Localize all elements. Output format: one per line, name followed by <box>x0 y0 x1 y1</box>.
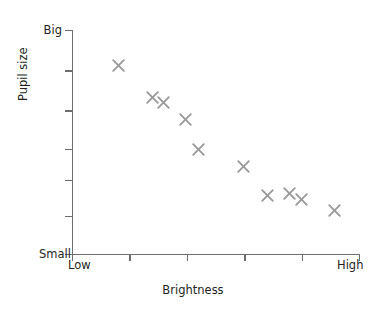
y-axis-tick-2 <box>65 180 72 181</box>
x-axis-tick-3 <box>244 254 245 261</box>
y-axis-min-label: Small <box>39 247 71 261</box>
data-point-marker <box>156 95 171 110</box>
x-axis-tick-4 <box>302 254 303 261</box>
data-point-marker <box>178 112 193 127</box>
x-axis-tick-2 <box>187 254 188 261</box>
y-axis-tick-3 <box>65 149 72 150</box>
data-point-marker <box>236 159 251 174</box>
x-axis-line <box>72 254 359 255</box>
x-axis-max-label: High <box>337 258 363 272</box>
y-axis-max-label: Big <box>44 23 62 37</box>
data-point-marker <box>260 188 275 203</box>
y-axis-tick-1 <box>65 216 72 217</box>
data-point-marker <box>111 58 126 73</box>
y-axis-title: Pupil size <box>16 47 30 101</box>
data-point-marker <box>191 142 206 157</box>
y-axis-line <box>72 30 73 255</box>
scatter-plot-figure: Big Small Low High Pupil size Brightness <box>0 0 386 312</box>
data-point-marker <box>145 90 160 105</box>
y-axis-tick-4 <box>65 110 72 111</box>
x-axis-min-label: Low <box>68 258 91 272</box>
y-axis-tick-5 <box>65 70 72 71</box>
data-point-marker <box>294 192 309 207</box>
x-axis-tick-1 <box>129 254 130 261</box>
data-point-marker <box>282 186 297 201</box>
plot-area <box>0 0 386 312</box>
y-axis-tick-6 <box>65 30 72 31</box>
x-axis-title: Brightness <box>0 283 386 297</box>
data-point-marker <box>327 203 342 218</box>
